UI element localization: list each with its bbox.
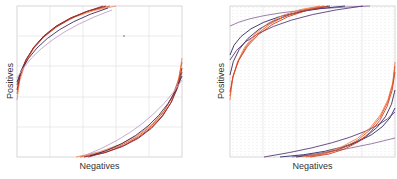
plot-left: Positives Negatives [0,0,200,179]
x-axis-label: Negatives [230,161,395,171]
plot-right-canvas [200,0,397,179]
y-axis-label: Positives [216,61,226,101]
plot-right: Positives Negatives [200,0,397,179]
x-axis-label: Negatives [17,161,182,171]
y-axis-label: Positives [5,61,15,101]
plot-left-canvas [0,0,200,179]
